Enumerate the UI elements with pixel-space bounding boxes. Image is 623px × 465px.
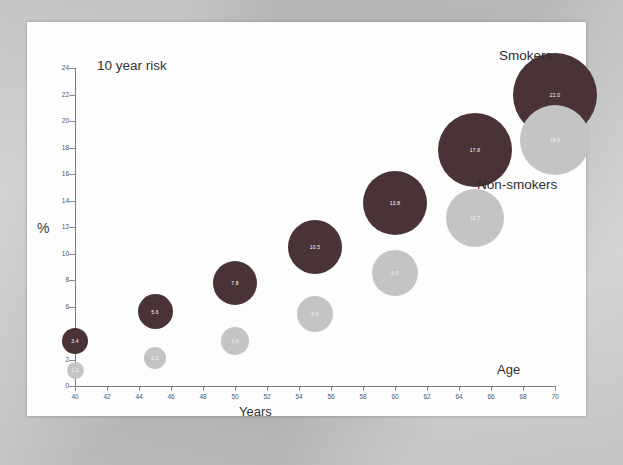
x-tick-mark xyxy=(395,386,396,391)
x-tick-mark xyxy=(299,386,300,391)
x-tick-mark xyxy=(267,386,268,391)
plot-area: 024681012141618202224 404244464850525456… xyxy=(27,22,586,416)
bubble-non-smokers-age-45[interactable]: 2.1 xyxy=(144,347,166,369)
x-tick-mark xyxy=(203,386,204,391)
x-tick-mark xyxy=(523,386,524,391)
photo-frame-border: 024681012141618202224 404244464850525456… xyxy=(0,0,623,465)
x-tick-label: 66 xyxy=(480,393,502,400)
y-tick-label: 14 xyxy=(31,197,69,204)
bubble-smokers-age-40[interactable]: 3.4 xyxy=(62,328,88,354)
bubble-non-smokers-age-60[interactable]: 8.5 xyxy=(372,250,418,296)
age-axis-annotation: Age xyxy=(497,362,520,377)
x-tick-mark xyxy=(459,386,460,391)
chart-canvas: 024681012141618202224 404244464850525456… xyxy=(27,22,586,416)
x-tick-mark xyxy=(107,386,108,391)
x-tick-label: 56 xyxy=(320,393,342,400)
legend-label-smokers: Smokers xyxy=(499,48,552,63)
y-tick-mark xyxy=(69,201,75,202)
y-tick-mark xyxy=(69,254,75,255)
x-tick-mark xyxy=(235,386,236,391)
y-tick-mark xyxy=(69,121,75,122)
bubble-non-smokers-age-70[interactable]: 18.6 xyxy=(520,105,590,175)
bubble-smokers-age-60[interactable]: 13.8 xyxy=(363,171,427,235)
bubble-non-smokers-age-50[interactable]: 3.4 xyxy=(221,327,249,355)
bubble-non-smokers-age-40[interactable]: 1.2 xyxy=(67,362,84,379)
x-tick-mark xyxy=(363,386,364,391)
x-axis-line xyxy=(75,386,555,387)
x-tick-mark xyxy=(139,386,140,391)
y-tick-label: 18 xyxy=(31,144,69,151)
y-tick-mark xyxy=(69,68,75,69)
x-tick-label: 42 xyxy=(96,393,118,400)
x-tick-label: 62 xyxy=(416,393,438,400)
x-tick-mark xyxy=(491,386,492,391)
bubble-smokers-age-50[interactable]: 7.8 xyxy=(213,261,257,305)
chart-title: 10 year risk xyxy=(97,58,167,73)
y-tick-label: 8 xyxy=(31,276,69,283)
x-tick-mark xyxy=(171,386,172,391)
y-tick-mark xyxy=(69,174,75,175)
bubble-non-smokers-age-55[interactable]: 5.4 xyxy=(297,296,333,332)
x-tick-label: 48 xyxy=(192,393,214,400)
y-tick-label: 10 xyxy=(31,250,69,257)
y-tick-label: 22 xyxy=(31,91,69,98)
bubble-smokers-age-45[interactable]: 5.6 xyxy=(138,294,173,329)
y-tick-label: 20 xyxy=(31,117,69,124)
x-tick-label: 52 xyxy=(256,393,278,400)
x-tick-label: 64 xyxy=(448,393,470,400)
bubble-non-smokers-age-65[interactable]: 12.7 xyxy=(446,189,504,247)
x-tick-mark xyxy=(331,386,332,391)
x-tick-label: 58 xyxy=(352,393,374,400)
x-tick-mark xyxy=(555,386,556,391)
x-tick-label: 40 xyxy=(64,393,86,400)
y-tick-mark xyxy=(69,95,75,96)
y-axis-title: % xyxy=(37,220,49,236)
x-tick-label: 68 xyxy=(512,393,534,400)
x-tick-mark xyxy=(427,386,428,391)
x-axis-title: Years xyxy=(239,404,272,419)
y-tick-mark xyxy=(69,307,75,308)
x-tick-label: 60 xyxy=(384,393,406,400)
y-tick-label: 0 xyxy=(31,382,69,389)
x-tick-label: 46 xyxy=(160,393,182,400)
y-tick-mark xyxy=(69,280,75,281)
y-tick-mark xyxy=(69,227,75,228)
y-tick-label: 24 xyxy=(31,64,69,71)
x-tick-label: 50 xyxy=(224,393,246,400)
y-tick-mark xyxy=(69,148,75,149)
legend-label-non-smokers: Non-smokers xyxy=(477,177,557,192)
y-tick-label: 6 xyxy=(31,303,69,310)
x-tick-label: 44 xyxy=(128,393,150,400)
y-tick-label: 2 xyxy=(31,356,69,363)
x-tick-label: 70 xyxy=(544,393,566,400)
y-tick-mark xyxy=(69,360,75,361)
x-tick-mark xyxy=(75,386,76,391)
bubble-smokers-age-55[interactable]: 10.5 xyxy=(288,220,342,274)
x-tick-label: 54 xyxy=(288,393,310,400)
y-tick-label: 16 xyxy=(31,170,69,177)
